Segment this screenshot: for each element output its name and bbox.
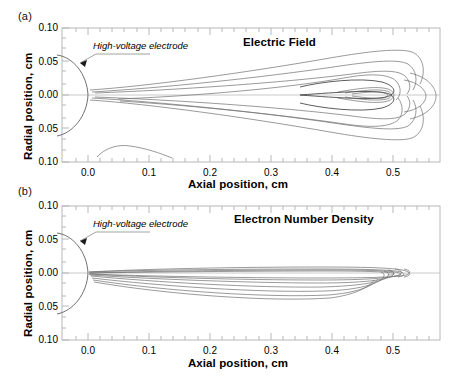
- electrode-leader-b: [80, 232, 150, 245]
- contours-electron-density: [89, 267, 410, 299]
- panel-electric-field: (a) Radial position, cm 0.10 0.05 0.00 0…: [0, 0, 458, 192]
- electrode-leader-a: [80, 54, 150, 67]
- figure-root: (a) Radial position, cm 0.10 0.05 0.00 0…: [0, 0, 458, 385]
- plot-canvas-a: [0, 0, 458, 192]
- plot-canvas-b: [0, 185, 458, 377]
- contours-electric-field: [90, 50, 436, 158]
- axes-frame-a: [62, 28, 440, 162]
- panel-electron-density: (b) Radial position, cm 0.10 0.05 0.00 0…: [0, 185, 458, 377]
